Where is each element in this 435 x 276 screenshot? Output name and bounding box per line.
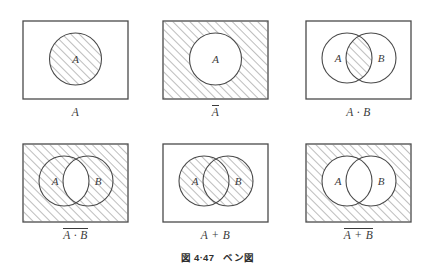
circle-label-b: B [95, 175, 102, 187]
panel-a-or-b-caption-text: A + B [201, 229, 230, 241]
panel-not-a-or-b-caption: A + B [305, 228, 412, 241]
panel-not-a-and-b: A B A · B [22, 143, 129, 223]
panel-a: A A [22, 20, 129, 100]
circle-label-a: A [191, 175, 199, 187]
figure-caption-number: 図 4·47 [181, 252, 214, 263]
figure-caption-title: ベン図 [223, 252, 254, 263]
panel-a-bar-caption: A [162, 105, 269, 118]
circle-label-a: A [71, 53, 79, 65]
panel-a-and-b-caption: A · B [305, 106, 412, 118]
circle-label-a: A [334, 52, 342, 64]
panel-a-and-b-diagram: A B [305, 20, 412, 100]
panel-not-a-or-b: A B A + B [305, 143, 412, 223]
panel-a-bar-caption-text: A [212, 105, 219, 118]
circle-label-b: B [235, 175, 242, 187]
panel-not-a-and-b-caption: A · B [22, 228, 129, 241]
panel-not-a-and-b-diagram: A B [22, 143, 129, 223]
panel-a-diagram: A [22, 20, 129, 100]
panel-not-a-and-b-caption-text: A · B [63, 228, 87, 241]
circle-label-a: A [51, 175, 59, 187]
circle-label-a: A [334, 175, 342, 187]
panel-a-caption: A [22, 106, 129, 118]
panel-a-or-b-diagram: A B [162, 143, 269, 223]
panel-not-a-or-b-diagram: A B [305, 143, 412, 223]
panel-a-and-b-caption-text: A · B [346, 106, 370, 118]
panel-a-caption-text: A [72, 106, 79, 118]
figure-caption: 図 4·47ベン図 [0, 250, 435, 264]
venn-figure: A A A A [0, 0, 435, 276]
panel-not-a-or-b-caption-text: A + B [344, 228, 373, 241]
panel-a-or-b-caption: A + B [162, 229, 269, 241]
panel-a-or-b: A B A + B [162, 143, 269, 223]
panel-a-bar-diagram: A [162, 20, 269, 100]
circle-label-b: B [378, 52, 385, 64]
circle-label-b: B [378, 175, 385, 187]
panel-a-and-b: A B A · B [305, 20, 412, 100]
panel-a-bar: A A [162, 20, 269, 100]
circle-label-a: A [211, 53, 219, 65]
